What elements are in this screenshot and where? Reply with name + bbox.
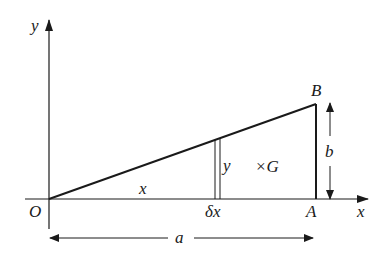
strip-width-label: δx — [205, 202, 221, 221]
triangle-centroid-diagram: y x O A B x y δx ×G b a — [0, 0, 389, 267]
base-label: a — [175, 228, 184, 247]
strip-height-label: y — [221, 156, 231, 175]
hypotenuse-OB — [49, 104, 316, 199]
y-axis-label: y — [29, 16, 39, 35]
x-axis-label: x — [356, 202, 365, 221]
height-label: b — [325, 142, 334, 161]
centroid-label: ×G — [255, 157, 279, 176]
strip-distance-label: x — [138, 179, 147, 198]
origin-label: O — [29, 202, 41, 221]
point-A-label: A — [305, 202, 317, 221]
point-B-label: B — [311, 81, 322, 100]
